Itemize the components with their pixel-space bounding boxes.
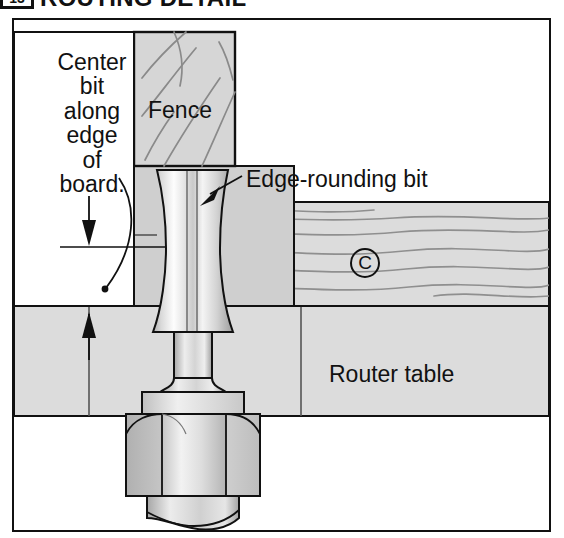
fence-group [134,32,235,166]
figure-title-strip: 13 ROUTING DETAIL [0,0,564,16]
figure-frame: Center bit along edge of board. Fence Ed… [12,18,551,532]
left-white-panel [14,32,134,306]
label-board-callout-c: C [350,248,380,278]
rotation-arc-dot [102,286,109,293]
collet-flange-group [142,392,244,414]
page-title: ROUTING DETAIL [40,0,246,10]
figure-number-badge: 13 [0,0,34,9]
router-table-group [14,306,549,416]
figure-title-row: 13 ROUTING DETAIL [0,0,246,13]
collet-nut-group [126,414,260,496]
technical-illustration [14,20,549,530]
edge-rounding-bit-group [153,170,233,332]
